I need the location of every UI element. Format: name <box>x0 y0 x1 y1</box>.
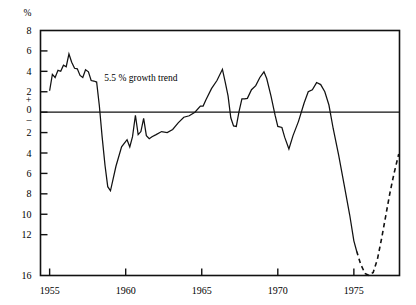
series-growth-rate-projected <box>357 154 399 275</box>
series-growth-rate-actual <box>50 54 357 251</box>
y-tick-label: 8 <box>27 188 32 199</box>
chart-container: 864202468101216+–%195519601965197019755.… <box>0 0 416 305</box>
y-tick-label: 6 <box>27 168 32 179</box>
x-tick-label: 1970 <box>268 285 288 296</box>
x-tick-label: 1960 <box>116 285 136 296</box>
y-tick-label: 6 <box>27 45 32 56</box>
y-tick-label: 4 <box>27 66 32 77</box>
x-tick-label: 1955 <box>40 285 60 296</box>
y-axis-unit-label: % <box>24 8 32 18</box>
y-tick-label: 16 <box>22 270 32 281</box>
growth-rate-line-chart: 864202468101216+–%195519601965197019755.… <box>0 0 416 305</box>
y-tick-label: 10 <box>22 209 32 220</box>
y-axis-plus-sign: + <box>26 94 32 105</box>
growth-trend-annotation: 5.5 % growth trend <box>104 73 178 83</box>
y-tick-label: 4 <box>27 148 32 159</box>
x-tick-label: 1965 <box>192 285 212 296</box>
y-tick-label: 8 <box>27 25 32 36</box>
plot-frame <box>41 31 400 276</box>
x-tick-label: 1975 <box>344 285 364 296</box>
y-tick-label: 2 <box>27 127 32 138</box>
y-tick-label: 12 <box>22 229 32 240</box>
y-axis-minus-sign: – <box>26 114 33 125</box>
